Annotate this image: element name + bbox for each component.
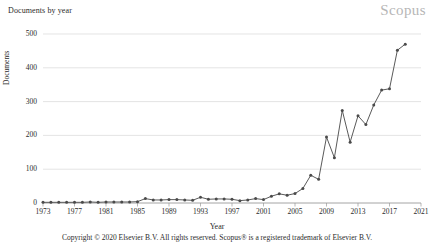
y-tick-0: 0	[7, 198, 37, 207]
x-tick-1977: 1977	[60, 207, 90, 216]
x-tick-2005: 2005	[280, 207, 310, 216]
x-tick-1997: 1997	[217, 207, 247, 216]
y-tick-200: 200	[7, 130, 37, 139]
x-tick-2021: 2021	[406, 207, 434, 216]
x-tick-1973: 1973	[28, 207, 58, 216]
copyright-notice: Copyright © 2020 Elsevier B.V. All right…	[0, 233, 434, 242]
scopus-documents-by-year-chart: Documents by year Scopus Documents 01002…	[0, 0, 434, 246]
y-tick-100: 100	[7, 164, 37, 173]
y-tick-300: 300	[7, 97, 37, 106]
x-tick-1981: 1981	[91, 207, 121, 216]
x-tick-2013: 2013	[343, 207, 373, 216]
x-tick-1985: 1985	[123, 207, 153, 216]
x-tick-2017: 2017	[375, 207, 405, 216]
x-axis-label: Year	[0, 222, 434, 231]
y-tick-500: 500	[7, 29, 37, 38]
y-tick-400: 400	[7, 63, 37, 72]
x-tick-2009: 2009	[312, 207, 342, 216]
x-tick-1989: 1989	[154, 207, 184, 216]
x-tick-2001: 2001	[249, 207, 279, 216]
x-tick-1993: 1993	[186, 207, 216, 216]
